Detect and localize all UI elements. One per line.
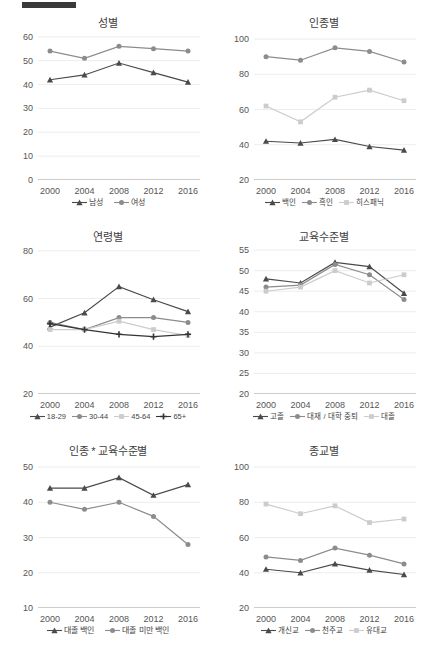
y-axis-tick: 40: [23, 341, 38, 351]
legend-label: 개신교: [278, 627, 299, 635]
legend-item[interactable]: 남성: [72, 198, 103, 207]
legend-marker-icon: [114, 198, 129, 207]
legend-item[interactable]: 65+: [156, 412, 186, 421]
x-axis-tick: 2000: [256, 400, 276, 410]
x-axis-tick: 2004: [74, 186, 94, 196]
y-axis-tick: 30: [239, 348, 254, 358]
chart-title: 인종별: [216, 14, 432, 30]
y-axis-tick: 40: [239, 568, 254, 578]
legend-item[interactable]: 여성: [114, 198, 145, 207]
chart-grid: 성별010203040506020002004200820122016남성여성인…: [0, 12, 432, 653]
legend-item[interactable]: 45-64: [114, 412, 150, 421]
legend-item[interactable]: 히스패닉: [339, 198, 384, 207]
y-axis-tick: 50: [239, 266, 254, 276]
legend-marker-icon: [105, 626, 120, 635]
legend-label: 65+: [173, 413, 186, 421]
y-axis-tick: 20: [23, 127, 38, 137]
y-axis-tick: 20: [239, 603, 254, 613]
y-axis-tick: 50: [23, 56, 38, 66]
y-axis-tick: 30: [23, 533, 38, 543]
legend-item[interactable]: 대재 / 대학 중퇴: [290, 412, 357, 421]
chart-panel-religion: 종교별2040608010020002004200820122016개신교천주교…: [216, 440, 432, 653]
legend-label: 45-64: [131, 413, 150, 421]
x-axis-tick: 2012: [359, 186, 379, 196]
legend-item[interactable]: 대졸 미만 백인: [105, 626, 168, 635]
legend-marker-icon: [261, 626, 276, 635]
plot-area: 2040608010020002004200820122016: [254, 460, 416, 608]
x-axis-tick: 2008: [109, 614, 129, 624]
legend-item[interactable]: 흑인: [302, 198, 333, 207]
y-axis-tick: 60: [23, 32, 38, 42]
legend-item[interactable]: 개신교: [261, 626, 299, 635]
legend-marker-icon: [47, 626, 62, 635]
legend-marker-icon: [253, 412, 268, 421]
x-axis-tick: 2012: [359, 614, 379, 624]
x-axis-tick: 2016: [178, 186, 198, 196]
legend-marker-icon: [114, 412, 129, 421]
y-axis-tick: 20: [23, 389, 38, 399]
y-axis-tick: 40: [23, 497, 38, 507]
legend-item[interactable]: 유대교: [349, 626, 387, 635]
legend-marker-icon: [302, 198, 317, 207]
chart-panel-education: 교육수준별20253035404550552000200420082012201…: [216, 226, 432, 440]
x-axis-tick: 2004: [290, 186, 310, 196]
legend-label: 흑인: [319, 199, 333, 207]
chart-legend: 18-2930-4445-6465+: [0, 412, 216, 421]
legend-label: 백인: [282, 199, 296, 207]
y-axis-tick: 60: [23, 294, 38, 304]
x-axis-tick: 2016: [394, 614, 414, 624]
y-axis-tick: 60: [239, 533, 254, 543]
plot-svg: [254, 460, 416, 608]
y-axis-tick: 100: [234, 34, 254, 44]
y-axis-tick: 40: [239, 307, 254, 317]
y-axis-tick: 10: [23, 151, 38, 161]
plot-area: 2040608010020002004200820122016: [254, 32, 416, 180]
x-axis-tick: 2000: [40, 400, 60, 410]
x-axis-tick: 2012: [143, 614, 163, 624]
y-axis-tick: 45: [239, 286, 254, 296]
x-axis-tick: 2000: [40, 614, 60, 624]
y-axis-tick: 55: [239, 245, 254, 255]
plot-area: 202530354045505520002004200820122016: [254, 246, 416, 394]
y-axis-tick: 50: [23, 462, 38, 472]
y-axis-tick: 0: [28, 175, 38, 185]
x-axis-tick: 2016: [394, 400, 414, 410]
chart-title: 인종 * 교육수준별: [0, 442, 216, 458]
legend-item[interactable]: 천주교: [305, 626, 343, 635]
legend-marker-icon: [349, 626, 364, 635]
plot-svg: [38, 460, 200, 608]
legend-item[interactable]: 30-44: [72, 412, 108, 421]
chart-panel-race-education: 인종 * 교육수준별102030405020002004200820122016…: [0, 440, 216, 653]
legend-marker-icon: [305, 626, 320, 635]
chart-panel-age: 연령별204060802000200420082012201618-2930-4…: [0, 226, 216, 440]
x-axis-tick: 2008: [325, 186, 345, 196]
legend-label: 대졸: [381, 413, 395, 421]
y-axis-tick: 35: [239, 327, 254, 337]
y-axis-tick: 25: [239, 368, 254, 378]
legend-item[interactable]: 백인: [265, 198, 296, 207]
plot-svg: [38, 32, 200, 180]
legend-label: 천주교: [322, 627, 343, 635]
chart-legend: 남성여성: [0, 198, 216, 207]
legend-marker-icon: [72, 198, 87, 207]
legend-marker-icon: [156, 412, 171, 421]
y-axis-tick: 80: [239, 497, 254, 507]
legend-item[interactable]: 대졸 백인: [47, 626, 94, 635]
x-axis-tick: 2012: [143, 186, 163, 196]
legend-label: 대졸 미만 백인: [122, 627, 168, 635]
legend-item[interactable]: 18-29: [30, 412, 66, 421]
x-axis-tick: 2008: [109, 186, 129, 196]
chart-legend: 대졸 백인대졸 미만 백인: [0, 626, 216, 635]
y-axis-tick: 20: [23, 568, 38, 578]
legend-item[interactable]: 대졸: [364, 412, 395, 421]
x-axis-tick: 2004: [74, 400, 94, 410]
legend-label: 고졸: [270, 413, 284, 421]
legend-item[interactable]: 고졸: [253, 412, 284, 421]
chart-legend: 개신교천주교유대교: [216, 626, 432, 635]
y-axis-tick: 40: [23, 80, 38, 90]
chart-panel-gender: 성별010203040506020002004200820122016남성여성: [0, 12, 216, 226]
chart-title: 종교별: [216, 442, 432, 458]
x-axis-tick: 2000: [40, 186, 60, 196]
legend-label: 30-44: [89, 413, 108, 421]
legend-label: 유대교: [366, 627, 387, 635]
